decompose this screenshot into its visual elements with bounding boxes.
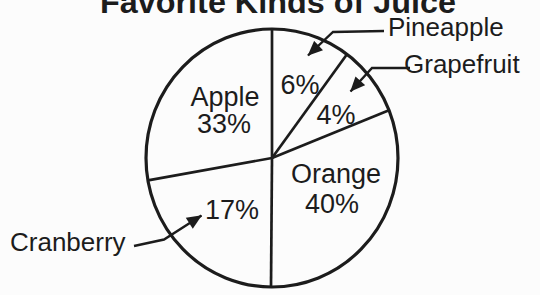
orange-slice-name: Orange [291, 159, 381, 189]
pie-chart: Favorite Kinds of Juice Apple 33% 6% 4% … [0, 0, 540, 295]
worksheet-page: Favorite Kinds of Juice Apple 33% 6% 4% … [0, 0, 540, 295]
apple-slice-name: Apple [190, 82, 259, 112]
boundary-cranberry-apple [148, 158, 272, 180]
pineapple-callout-label: Pineapple [388, 12, 504, 42]
boundary-orange-cranberry [271, 158, 272, 287]
cranberry-slice-percent: 17% [205, 195, 259, 225]
grapefruit-leader-arrow [351, 68, 411, 92]
grapefruit-slice-percent: 4% [316, 100, 355, 130]
grapefruit-callout-label: Grapefruit [404, 49, 520, 79]
orange-slice-percent: 40% [305, 189, 359, 219]
cranberry-callout-label: Cranberry [10, 227, 126, 257]
pineapple-slice-percent: 6% [280, 70, 319, 100]
apple-slice-percent: 33% [197, 109, 251, 139]
